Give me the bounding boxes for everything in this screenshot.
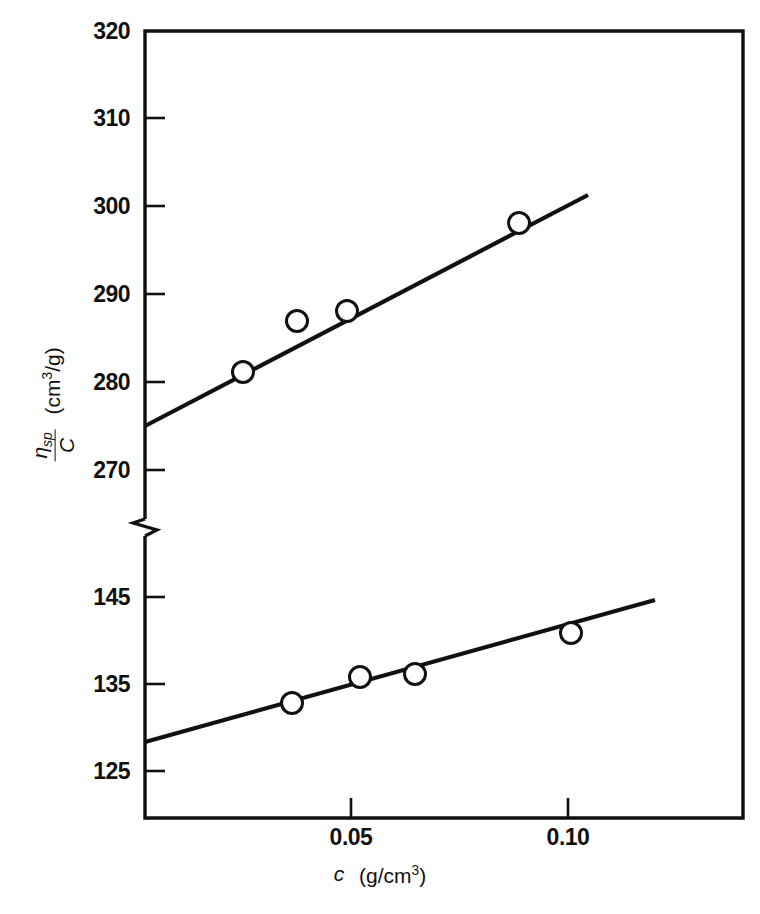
y-unit-open: (cm: [41, 379, 64, 414]
ytick-marks-lower: [145, 597, 165, 771]
ytick-label-145: 145: [60, 584, 130, 611]
ytick-label-320: 320: [60, 18, 130, 45]
y-axis-title-numerator: ηsp: [29, 429, 56, 461]
x-unit-open: (g/cm: [359, 864, 412, 887]
ytick-label-125: 125: [60, 758, 130, 785]
data-point: [233, 362, 254, 383]
data-point: [561, 623, 582, 644]
x-axis-title-unit: (g/cm3): [359, 862, 426, 888]
xtick-marks: [351, 798, 568, 818]
data-point: [337, 301, 358, 322]
y-axis-title-denominator: C: [55, 429, 77, 461]
data-point: [287, 311, 308, 332]
ytick-label-300: 300: [60, 193, 130, 220]
y-axis-title: ηsp C (cm3/g): [28, 284, 77, 524]
ytick-label-135: 135: [60, 671, 130, 698]
data-point: [350, 667, 371, 688]
xtick-label-005: 0.05: [306, 824, 396, 851]
axis-break-icon: [133, 519, 157, 536]
concentration-symbol: c: [334, 862, 345, 885]
eta-symbol: η: [28, 447, 51, 459]
y-unit-exponent: 3: [39, 372, 55, 380]
x-axis-title: c (g/cm3): [235, 862, 525, 888]
lower-data-points: [282, 623, 582, 714]
eta-subscript: sp: [39, 432, 55, 447]
ytick-label-310: 310: [60, 105, 130, 132]
y-unit-close: /g): [41, 347, 64, 372]
figure-container: 320 310 300 290 280 270 145 135 125 0.05…: [0, 0, 760, 914]
data-point: [282, 693, 303, 714]
xtick-label-010: 0.10: [523, 824, 613, 851]
data-point: [509, 213, 530, 234]
x-unit-close: ): [419, 864, 426, 887]
axis-frame: [133, 31, 743, 818]
y-axis-title-fraction: ηsp C: [29, 429, 78, 461]
y-axis-title-unit: (cm3/g): [39, 347, 65, 414]
data-point: [405, 664, 426, 685]
lower-fit-line: [145, 600, 655, 742]
